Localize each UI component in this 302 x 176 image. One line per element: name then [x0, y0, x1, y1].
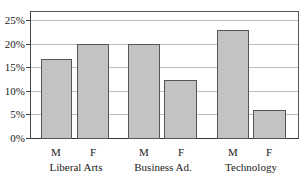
bar-technology-f	[253, 110, 286, 139]
x-label-m: M	[129, 146, 159, 158]
y-axis-label: 25%	[0, 14, 25, 26]
x-label-m: M	[218, 146, 248, 158]
y-tick	[26, 114, 31, 115]
y-tick	[26, 44, 31, 45]
y-axis-label: 15%	[0, 61, 25, 73]
y-axis-label: 5%	[0, 108, 25, 120]
x-label-f: F	[166, 146, 196, 158]
x-label-m: M	[41, 146, 71, 158]
group-label-liberal-arts: Liberal Arts	[26, 161, 126, 173]
y-tick	[26, 138, 31, 139]
y-tick	[26, 67, 31, 68]
x-label-f: F	[78, 146, 108, 158]
x-label-f: F	[254, 146, 284, 158]
bar-liberal-arts-f	[77, 44, 109, 139]
bar-business-m	[128, 44, 160, 139]
y-axis-label: 0%	[0, 132, 25, 144]
bar-technology-m	[217, 30, 249, 139]
bar-liberal-arts-m	[41, 59, 72, 139]
y-tick	[26, 91, 31, 92]
bar-business-f	[164, 80, 197, 139]
y-axis-label: 20%	[0, 38, 25, 50]
group-label-technology: Technology	[201, 161, 301, 173]
y-axis-label: 10%	[0, 85, 25, 97]
group-label-business: Business Ad.	[113, 161, 213, 173]
y-tick	[26, 20, 31, 21]
